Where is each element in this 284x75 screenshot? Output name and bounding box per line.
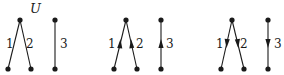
vertex-bottom-left	[111, 66, 116, 71]
edge-label-3: 3	[166, 37, 174, 51]
panel-undirected: U 1 2 3	[5, 1, 67, 72]
vertex-top-fork	[229, 17, 234, 22]
vertex-label-u: U	[30, 1, 42, 16]
vertex-bottom-left	[218, 66, 223, 71]
arrow-up-icon	[158, 39, 163, 48]
vertex-top-fork	[123, 17, 128, 22]
edge-label-1: 1	[108, 37, 116, 51]
edge-label-2: 2	[240, 37, 248, 51]
arrow-down-icon	[265, 39, 270, 48]
edge-label-3: 3	[274, 37, 282, 51]
edge-label-3: 3	[60, 37, 68, 51]
vertex-bottom-right	[241, 66, 246, 71]
vertex-top-fork	[17, 17, 22, 22]
vertex-bottom-single	[158, 66, 163, 71]
vertex-bottom-right	[134, 66, 139, 71]
vertex-bottom-single	[265, 66, 270, 71]
vertex-top-single	[52, 17, 57, 22]
edge-label-2: 2	[136, 37, 144, 51]
panel-downward: 1 2 3	[216, 17, 282, 71]
vertex-top-single	[265, 17, 270, 22]
vertex-bottom-left	[5, 66, 10, 71]
vertex-top-single	[158, 17, 163, 22]
edge-label-1: 1	[6, 37, 14, 51]
edge-label-2: 2	[26, 37, 34, 51]
edge-label-1: 1	[216, 37, 224, 51]
vertex-bottom-right	[28, 66, 33, 71]
arrow-down-icon	[225, 39, 230, 48]
graph-diagram: U 1 2 3 1 2 3	[0, 0, 284, 75]
panel-upward: 1 2 3	[108, 17, 174, 71]
vertex-bottom-single	[52, 66, 57, 71]
